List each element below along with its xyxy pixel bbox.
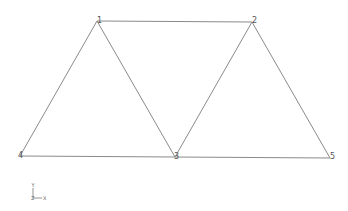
node-label-3: 3 bbox=[174, 152, 179, 161]
members bbox=[20, 21, 330, 158]
node-label-1: 1 bbox=[97, 16, 102, 25]
member-4-3 bbox=[20, 156, 175, 157]
node-label-2: 2 bbox=[252, 16, 257, 25]
truss-diagram: 1 2 3 4 5 Y X Z bbox=[0, 0, 348, 211]
axis-triad: Y X Z bbox=[31, 182, 48, 201]
node-labels: 1 2 3 4 5 bbox=[18, 16, 335, 161]
member-1-3 bbox=[97, 21, 175, 157]
triad-x-label: X bbox=[43, 195, 47, 201]
member-1-2 bbox=[97, 21, 252, 22]
triad-y-label: Y bbox=[31, 182, 36, 188]
member-2-3 bbox=[175, 22, 252, 157]
node-label-4: 4 bbox=[18, 151, 23, 160]
node-label-5: 5 bbox=[330, 152, 335, 161]
triad-z-label: Z bbox=[31, 195, 35, 201]
member-2-5 bbox=[252, 22, 330, 158]
member-1-4 bbox=[20, 21, 97, 156]
member-3-5 bbox=[175, 157, 330, 158]
